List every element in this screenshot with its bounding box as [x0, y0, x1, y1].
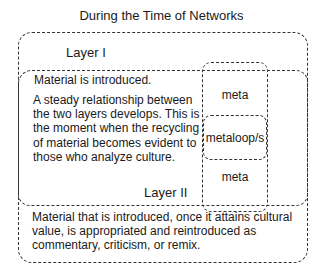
layer-2-label: Layer II [144, 185, 187, 200]
layer-1-bottom-text: Material that is introduced, once it att… [32, 211, 302, 252]
diagram-title: During the Time of Networks [0, 8, 323, 23]
meta-top-label: meta [202, 88, 268, 102]
layer-2-intro: Material is introduced. [34, 73, 151, 87]
layer-1-label: Layer I [66, 45, 106, 60]
metaloop-label: metaloop/s [203, 131, 267, 145]
meta-bottom-label: meta [202, 170, 268, 184]
layer-2-paragraph: A steady relationship between the two la… [33, 93, 201, 164]
